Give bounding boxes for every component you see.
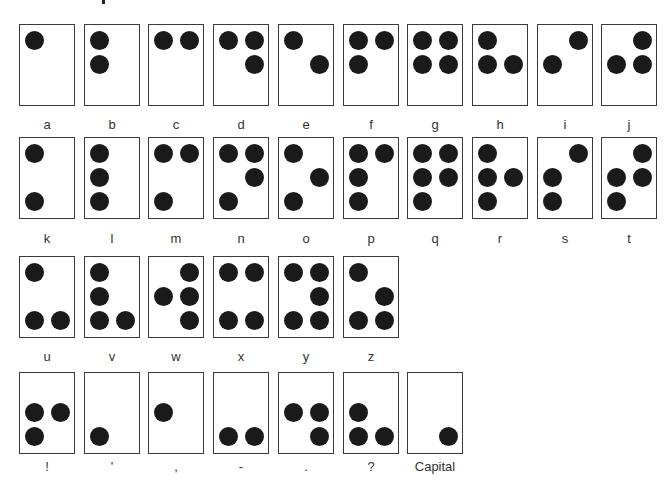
braille-dot-6 bbox=[116, 311, 135, 330]
braille-dot-3 bbox=[154, 192, 173, 211]
braille-cell-label: , bbox=[147, 459, 205, 474]
braille-cell bbox=[19, 24, 75, 106]
braille-cell bbox=[472, 137, 528, 219]
braille-cell bbox=[278, 372, 334, 454]
braille-dot-6 bbox=[310, 427, 329, 446]
braille-dot-4 bbox=[245, 263, 264, 282]
braille-cell bbox=[213, 256, 269, 338]
braille-dot-3 bbox=[25, 192, 44, 211]
braille-dot-1 bbox=[478, 144, 497, 163]
braille-dot-4 bbox=[569, 31, 588, 50]
braille-dot-5 bbox=[504, 168, 523, 187]
braille-cell-label: o bbox=[277, 231, 335, 246]
braille-cell bbox=[343, 256, 399, 338]
braille-dot-4 bbox=[180, 31, 199, 50]
braille-dot-5 bbox=[51, 403, 70, 422]
braille-cell bbox=[213, 137, 269, 219]
braille-dot-2 bbox=[478, 168, 497, 187]
braille-dot-3 bbox=[219, 427, 238, 446]
braille-cell bbox=[601, 137, 657, 219]
braille-dot-6 bbox=[180, 311, 199, 330]
braille-dot-3 bbox=[349, 192, 368, 211]
braille-cell-label: Capital bbox=[406, 459, 464, 474]
braille-cell-label: m bbox=[147, 231, 205, 246]
braille-cell-label: r bbox=[471, 231, 529, 246]
braille-dot-1 bbox=[349, 263, 368, 282]
braille-dot-1 bbox=[284, 31, 303, 50]
braille-cell-label: t bbox=[600, 231, 658, 246]
braille-dot-2 bbox=[478, 55, 497, 74]
braille-cell bbox=[19, 137, 75, 219]
braille-dot-4 bbox=[569, 144, 588, 163]
braille-dot-1 bbox=[25, 263, 44, 282]
braille-dot-2 bbox=[154, 287, 173, 306]
braille-cell bbox=[84, 256, 140, 338]
braille-cell-label: i bbox=[536, 117, 594, 132]
braille-dot-4 bbox=[245, 144, 264, 163]
braille-cell bbox=[19, 256, 75, 338]
braille-cell-label: b bbox=[83, 117, 141, 132]
braille-dot-4 bbox=[245, 31, 264, 50]
braille-cell-label: x bbox=[212, 349, 270, 364]
braille-dot-2 bbox=[349, 55, 368, 74]
braille-dot-5 bbox=[310, 287, 329, 306]
braille-cell bbox=[84, 24, 140, 106]
braille-dot-5 bbox=[504, 55, 523, 74]
braille-dot-4 bbox=[439, 144, 458, 163]
braille-cell-label: g bbox=[406, 117, 464, 132]
braille-dot-4 bbox=[375, 31, 394, 50]
braille-dot-4 bbox=[180, 144, 199, 163]
braille-dot-5 bbox=[245, 168, 264, 187]
braille-cell-label: h bbox=[471, 117, 529, 132]
braille-dot-3 bbox=[284, 192, 303, 211]
braille-dot-3 bbox=[90, 427, 109, 446]
braille-dot-3 bbox=[349, 311, 368, 330]
braille-dot-2 bbox=[543, 55, 562, 74]
braille-cell-label: ? bbox=[342, 459, 400, 474]
braille-dot-1 bbox=[90, 263, 109, 282]
braille-cell-label: k bbox=[18, 231, 76, 246]
braille-dot-5 bbox=[439, 168, 458, 187]
braille-dot-2 bbox=[349, 168, 368, 187]
braille-dot-2 bbox=[607, 168, 626, 187]
braille-dot-2 bbox=[543, 168, 562, 187]
braille-cell bbox=[343, 372, 399, 454]
braille-dot-1 bbox=[284, 263, 303, 282]
braille-dot-3 bbox=[349, 427, 368, 446]
braille-dot-5 bbox=[310, 55, 329, 74]
braille-cell bbox=[343, 137, 399, 219]
braille-dot-5 bbox=[180, 287, 199, 306]
braille-dot-2 bbox=[90, 287, 109, 306]
braille-cell bbox=[148, 137, 204, 219]
braille-dot-5 bbox=[439, 55, 458, 74]
braille-dot-6 bbox=[439, 427, 458, 446]
braille-cell-label: . bbox=[277, 459, 335, 474]
braille-dot-3 bbox=[607, 192, 626, 211]
braille-dot-1 bbox=[154, 144, 173, 163]
braille-dot-4 bbox=[180, 263, 199, 282]
braille-cell-label: v bbox=[83, 349, 141, 364]
braille-dot-1 bbox=[219, 263, 238, 282]
braille-dot-2 bbox=[349, 403, 368, 422]
braille-dot-5 bbox=[375, 287, 394, 306]
braille-cell bbox=[19, 372, 75, 454]
braille-cell bbox=[407, 24, 463, 106]
braille-dot-4 bbox=[633, 144, 652, 163]
braille-dot-1 bbox=[349, 31, 368, 50]
cropped-title-fragment bbox=[102, 0, 105, 4]
braille-cell-label: e bbox=[277, 117, 335, 132]
braille-dot-5 bbox=[633, 168, 652, 187]
braille-dot-4 bbox=[439, 31, 458, 50]
braille-cell bbox=[84, 372, 140, 454]
braille-dot-1 bbox=[413, 31, 432, 50]
braille-dot-2 bbox=[90, 55, 109, 74]
braille-dot-3 bbox=[25, 427, 44, 446]
braille-dot-5 bbox=[245, 55, 264, 74]
braille-cell-label: y bbox=[277, 349, 335, 364]
braille-dot-2 bbox=[25, 403, 44, 422]
braille-cell-label: z bbox=[342, 349, 400, 364]
braille-cell bbox=[148, 24, 204, 106]
braille-dot-6 bbox=[51, 311, 70, 330]
braille-dot-3 bbox=[413, 192, 432, 211]
braille-cell-label: c bbox=[147, 117, 205, 132]
